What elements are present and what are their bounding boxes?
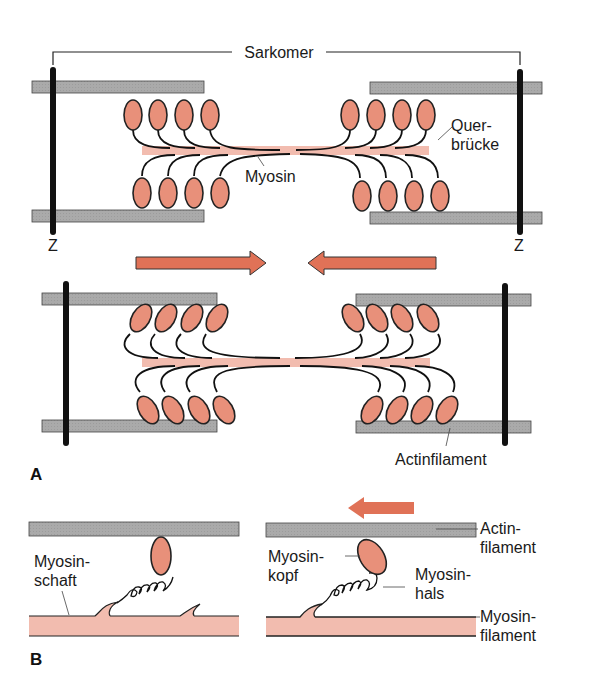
myosin-head (151, 537, 171, 575)
panel-b-letter: B (30, 650, 42, 669)
myosin-head (352, 535, 392, 580)
crossbridge-detail: Myosin- schaft Actin- filament Myosin- k… (29, 497, 537, 644)
sarcomere-bracket-right (326, 52, 520, 65)
sarcomere-contracted: Actinfilament (42, 284, 531, 468)
actin-filament (32, 81, 204, 93)
z-label-right: Z (514, 237, 524, 254)
crossbridge-label-2: brücke (451, 136, 499, 153)
shaft-label-2: schaft (34, 572, 77, 589)
actin-filament (32, 210, 204, 222)
shaft-label-1: Myosin- (34, 553, 90, 570)
crossbridge-label-1: Quer- (451, 117, 492, 134)
actin-filament (370, 82, 542, 94)
head-label-2: kopf (268, 567, 299, 584)
actin-filament (29, 522, 239, 536)
myosin-neck-coil (321, 573, 377, 605)
shaft-leader (62, 591, 69, 615)
crossbridge-leader (438, 127, 452, 140)
head-label-1: Myosin- (268, 548, 324, 565)
neck-label-2: hals (415, 585, 444, 602)
actin-filament (370, 212, 542, 224)
myosin-filament (266, 604, 476, 636)
actin-label: Actinfilament (395, 451, 487, 468)
sarcomere-diagram: Sarkomer Z Z (0, 0, 606, 681)
myosin-neck-coil (117, 577, 173, 603)
z-label-left: Z (48, 237, 58, 254)
myosin-filament (29, 602, 239, 636)
sarcomere-bracket-left (53, 52, 232, 65)
arrow-left-icon (308, 251, 436, 275)
sarcomere-relaxed: Sarkomer Z Z (32, 44, 542, 254)
contraction-arrows (136, 251, 436, 275)
actin-filament (266, 523, 476, 537)
myosin-leader (258, 157, 264, 166)
panel-a-letter: A (30, 465, 42, 484)
arrow-right-icon (136, 251, 266, 275)
sarcomere-label: Sarkomer (244, 44, 314, 61)
myosin-filament-label-1: Myosin- (480, 608, 536, 625)
actin-label-2: filament (480, 539, 537, 556)
neck-label-1: Myosin- (415, 566, 471, 583)
actin-label-1: Actin- (480, 520, 521, 537)
myosin-filament-label-2: filament (480, 627, 537, 644)
myosin-label: Myosin (245, 168, 296, 185)
arrow-left-icon (348, 497, 414, 519)
